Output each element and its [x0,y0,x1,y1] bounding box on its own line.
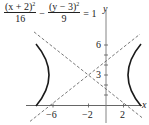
equation-fraction-1: (x + 2)2 16 [4,2,36,24]
x-tick-label-neg2: −2 [82,110,93,120]
asymptote-negative-slope [34,32,142,118]
y-tick-label-3: 3 [96,70,101,80]
equation-label: (x + 2)2 16 − (y − 3)2 9 = 1 [4,2,99,24]
hyperbola-left-branch [36,44,49,106]
x-tick-label-2: 2 [120,110,125,120]
x-axis-label: x [142,100,146,110]
equation-minus: − [39,8,45,19]
y-tick-label-6: 6 [96,40,101,50]
equation-fraction-2: (y − 3)2 9 [48,2,80,24]
x-tick-label-neg6: −6 [46,110,57,120]
y-axis-label: y [103,4,107,14]
hyperbola-right-branch [128,44,141,106]
equation-rhs: = 1 [83,8,96,19]
